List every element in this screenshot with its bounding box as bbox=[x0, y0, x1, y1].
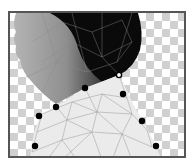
pin[interactable] bbox=[36, 113, 42, 119]
pin[interactable] bbox=[82, 85, 88, 91]
pin[interactable] bbox=[120, 91, 126, 97]
warped-image-layer[interactable] bbox=[10, 13, 186, 158]
pin[interactable] bbox=[139, 118, 145, 124]
pin-selected[interactable] bbox=[116, 72, 121, 77]
pin[interactable] bbox=[53, 104, 59, 110]
canvas-frame[interactable] bbox=[8, 11, 186, 158]
pin[interactable] bbox=[32, 143, 38, 149]
pin[interactable] bbox=[153, 143, 159, 149]
